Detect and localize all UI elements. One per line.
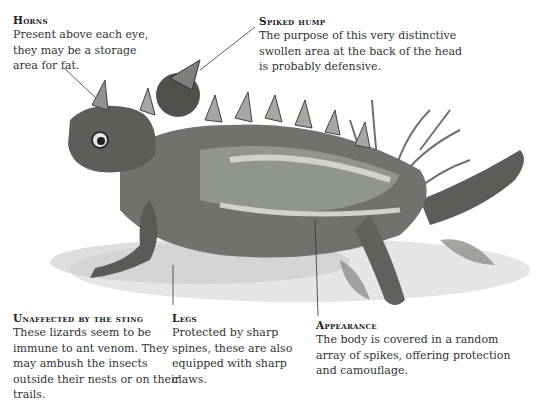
- label-legs-text: Protected by sharp spines, these are als…: [172, 325, 312, 387]
- label-unaffected: Unaffected by the sting These lizards se…: [13, 311, 185, 402]
- lizard-tail: [420, 150, 524, 225]
- label-horns-title: Horns: [13, 13, 163, 27]
- label-spiked-hump-text: The purpose of this very distinctive swo…: [259, 28, 474, 75]
- label-horns-text: Present above each eye, they may be a st…: [13, 27, 163, 74]
- horn-spike: [92, 80, 108, 110]
- label-unaffected-title: Unaffected by the sting: [13, 311, 185, 325]
- label-unaffected-text: These lizards seem to be immune to ant v…: [13, 325, 185, 402]
- label-spiked-hump-title: Spiked hump: [259, 14, 474, 28]
- label-spiked-hump: Spiked hump The purpose of this very dis…: [259, 14, 474, 75]
- label-horns: Horns Present above each eye, they may b…: [13, 13, 163, 74]
- label-legs-title: Legs: [172, 311, 312, 325]
- label-appearance: Appearance The body is covered in a rand…: [316, 318, 516, 379]
- label-appearance-text: The body is covered in a random array of…: [316, 332, 516, 379]
- label-appearance-title: Appearance: [316, 318, 516, 332]
- leader-line-hump: [200, 27, 255, 70]
- lizard-head: [68, 80, 156, 172]
- label-legs: Legs Protected by sharp spines, these ar…: [172, 311, 312, 387]
